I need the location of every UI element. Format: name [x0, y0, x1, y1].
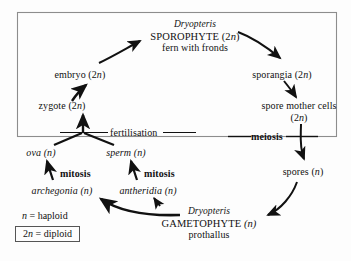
legend-haploid: n = haploid	[22, 210, 68, 221]
label-mitosis-left: mitosis	[60, 168, 91, 180]
node-spores: spores (n)	[283, 166, 324, 178]
arrow-to-antheridia	[154, 198, 160, 206]
arrow-archegonia-to-ova	[47, 161, 53, 180]
gametophyte-generation: GAMETOPHYTE (n)	[162, 218, 257, 230]
spore-mother-cells-line1: spore mother cells	[261, 100, 336, 112]
arrow-spore-mother-cells-to-spores	[301, 124, 304, 159]
arrow-embryo-to-sporophyte	[99, 41, 140, 63]
arrow-sporophyte-to-sporangia	[238, 32, 280, 58]
legend-diploid: 2n = diploid	[15, 226, 80, 242]
gametophyte-description: prothallus	[162, 229, 257, 241]
spore-mother-cells-line2: (2n)	[261, 112, 336, 124]
node-embryo: embryo (2n)	[55, 69, 106, 81]
node-sperm: sperm (n)	[106, 147, 146, 159]
line-ova-to-fertilisation	[54, 133, 82, 145]
node-zygote: zygote (2n)	[39, 100, 86, 112]
node-gametophyte: Dryopteris GAMETOPHYTE (n) prothallus	[162, 206, 257, 241]
node-sporophyte: Dryopteris SPOROPHYTE (2n) fern with fro…	[150, 19, 239, 54]
node-archegonia: archegonia (n)	[32, 185, 93, 197]
arrow-spores-to-gametophyte	[268, 182, 297, 215]
node-antheridia: antheridia (n)	[119, 185, 176, 197]
node-ova: ova (n)	[26, 147, 55, 159]
sporophyte-description: fern with fronds	[150, 42, 239, 54]
sporophyte-genus: Dryopteris	[150, 19, 239, 31]
arrow-antheridia-to-sperm	[131, 161, 137, 180]
label-meiosis: meiosis	[251, 131, 283, 143]
gametophyte-genus: Dryopteris	[162, 206, 257, 218]
label-mitosis-right: mitosis	[144, 168, 175, 180]
sporophyte-generation: SPOROPHYTE (2n)	[150, 31, 239, 43]
fern-life-cycle-diagram: Dryopteris SPOROPHYTE (2n) fern with fro…	[0, 0, 351, 261]
arrow-sporangia-to-spore-mother-cells	[284, 81, 296, 97]
arrow-zygote-to-embryo	[72, 85, 86, 101]
label-fertilisation: fertilisation	[110, 127, 157, 139]
node-spore-mother-cells: spore mother cells (2n)	[261, 100, 336, 123]
node-sporangia: sporangia (2n)	[252, 69, 311, 81]
